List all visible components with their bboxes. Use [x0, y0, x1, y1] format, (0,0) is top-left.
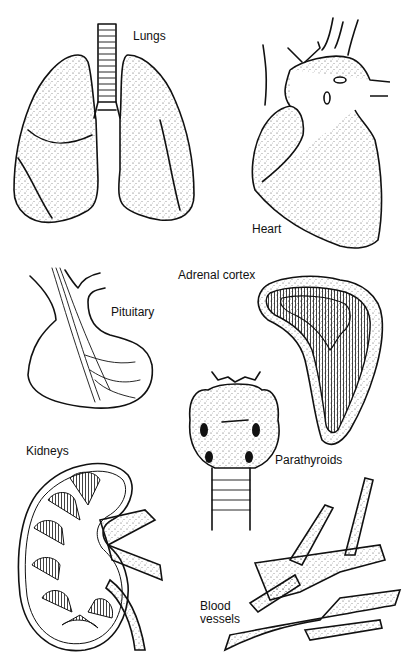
- organ-illustration: Lungs Heart Pituitary Adrenal cortex Par…: [0, 0, 411, 670]
- label-blood-vessels-line2: vessels: [200, 613, 240, 626]
- heart-drawing: [252, 18, 390, 248]
- label-lungs: Lungs: [133, 30, 166, 43]
- label-pituitary: Pituitary: [111, 306, 154, 319]
- label-adrenal-cortex: Adrenal cortex: [178, 269, 255, 282]
- parathyroids-drawing: [190, 372, 279, 530]
- kidneys-drawing: [18, 464, 162, 651]
- label-heart: Heart: [252, 223, 281, 236]
- label-parathyroids: Parathyroids: [275, 454, 342, 467]
- organ-drawings: [0, 0, 411, 670]
- lungs-drawing: [14, 24, 194, 222]
- blood-vessels-drawing: [225, 478, 400, 650]
- pituitary-drawing: [28, 268, 152, 408]
- label-kidneys: Kidneys: [26, 445, 69, 458]
